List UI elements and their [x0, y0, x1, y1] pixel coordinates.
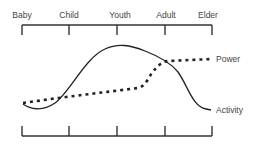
bottom-axis — [22, 126, 212, 136]
stage-label-baby: Baby — [12, 10, 31, 20]
activity-series-label: Activity — [216, 105, 243, 115]
stage-label-youth: Youth — [109, 10, 130, 20]
power-series-label: Power — [216, 54, 240, 64]
activity-curve — [23, 45, 211, 110]
stage-label-elder: Elder — [198, 10, 218, 20]
diagram-canvas — [0, 0, 254, 146]
stage-label-adult: Adult — [156, 10, 175, 20]
top-axis — [22, 25, 212, 35]
stage-label-child: Child — [59, 10, 78, 20]
